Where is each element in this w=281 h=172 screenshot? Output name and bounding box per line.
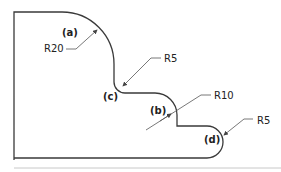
feature-c-label: (c)	[103, 91, 118, 102]
feature-b-radius: R10	[214, 90, 234, 101]
feature-a-radius: R20	[44, 43, 64, 54]
feature-d-label: (d)	[204, 134, 220, 145]
leader-c	[123, 58, 161, 86]
feature-d-radius: R5	[257, 115, 270, 126]
leader-d	[224, 119, 253, 135]
feature-b-label: (b)	[150, 105, 166, 116]
profile-drawing: (a) R20 (c) R5 (b) R10 (d) R5	[0, 0, 281, 172]
feature-d: (d) R5	[204, 115, 270, 145]
feature-a-label: (a)	[62, 27, 78, 38]
feature-b: (b) R10	[146, 90, 234, 130]
feature-c-radius: R5	[164, 53, 177, 64]
part-outline	[14, 12, 223, 160]
feature-a: (a) R20	[44, 27, 97, 54]
